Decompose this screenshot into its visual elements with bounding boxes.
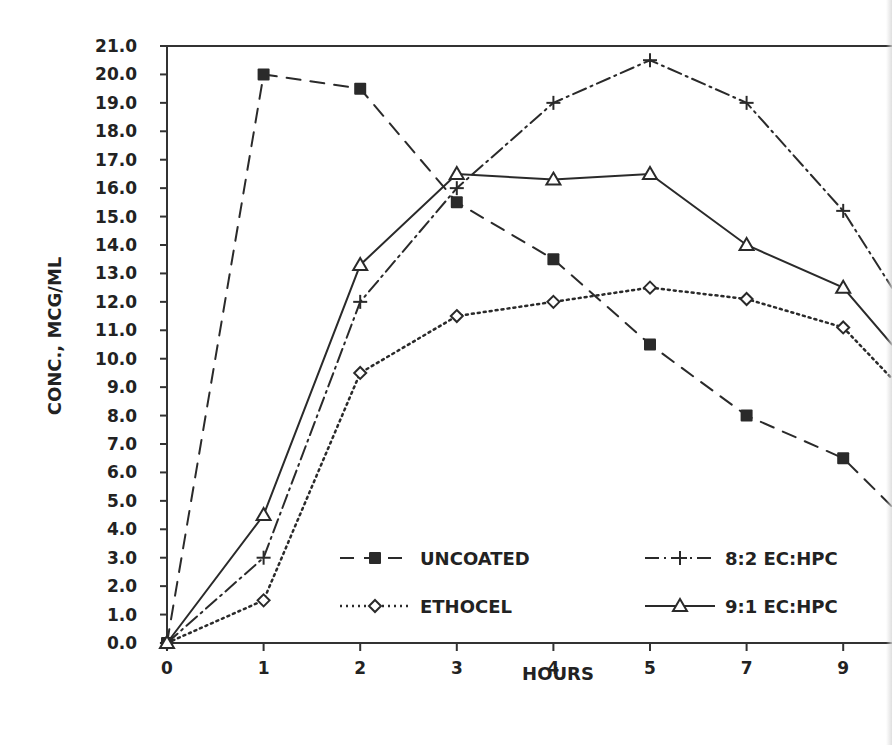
filled-square-marker-icon	[837, 452, 849, 464]
y-tick-label: 16.0	[95, 178, 137, 198]
open-diamond-marker-icon	[369, 600, 381, 612]
series-line	[167, 288, 892, 643]
filled-square-marker-icon	[369, 552, 381, 564]
y-tick-label: 0.0	[107, 633, 137, 653]
y-tick-label: 11.0	[95, 320, 137, 340]
y-tick-label: 13.0	[95, 263, 137, 283]
open-triangle-marker-icon	[643, 167, 657, 179]
y-tick-label: 20.0	[95, 64, 137, 84]
y-tick-label: 5.0	[107, 491, 137, 511]
x-tick-label: 7	[741, 658, 753, 678]
series-line	[167, 174, 892, 643]
y-tick-label: 12.0	[95, 292, 137, 312]
x-tick-label: 5	[644, 658, 656, 678]
legend: UNCOATEDETHOCEL8:2 EC:HPC9:1 EC:HPC	[340, 548, 838, 617]
x-axis-ticks: 01234579	[161, 643, 849, 678]
open-diamond-marker-icon	[451, 310, 463, 322]
legend-item: UNCOATED	[340, 548, 530, 569]
legend-item: ETHOCEL	[340, 596, 512, 617]
x-tick-label: 3	[451, 658, 463, 678]
legend-label: UNCOATED	[420, 548, 530, 569]
open-diamond-marker-icon	[741, 293, 753, 305]
open-triangle-marker-icon	[257, 508, 271, 520]
y-tick-label: 2.0	[107, 576, 137, 596]
open-diamond-marker-icon	[644, 282, 656, 294]
y-axis-ticks: 0.01.02.03.04.05.06.07.08.09.010.011.012…	[95, 36, 167, 653]
legend-label: 8:2 EC:HPC	[725, 548, 838, 569]
open-diamond-marker-icon	[354, 367, 366, 379]
series-9-1-ec-hpc	[160, 167, 892, 648]
open-diamond-marker-icon	[258, 594, 270, 606]
y-tick-label: 21.0	[95, 36, 137, 56]
x-tick-label: 9	[837, 658, 849, 678]
plus-marker-icon	[836, 204, 850, 218]
x-tick-label: 0	[161, 658, 173, 678]
open-triangle-marker-icon	[740, 238, 754, 250]
x-tick-label: 2	[354, 658, 366, 678]
y-tick-label: 9.0	[107, 377, 137, 397]
filled-square-marker-icon	[258, 68, 270, 80]
y-tick-label: 14.0	[95, 235, 137, 255]
legend-item: 8:2 EC:HPC	[645, 548, 838, 569]
y-tick-label: 18.0	[95, 121, 137, 141]
plus-marker-icon	[643, 53, 657, 67]
filled-square-marker-icon	[741, 410, 753, 422]
y-tick-label: 6.0	[107, 462, 137, 482]
concentration-line-chart: 0.01.02.03.04.05.06.07.08.09.010.011.012…	[0, 0, 892, 745]
filled-square-marker-icon	[547, 253, 559, 265]
open-triangle-marker-icon	[450, 167, 464, 179]
y-tick-label: 3.0	[107, 548, 137, 568]
scan-edge-shadow	[886, 0, 892, 745]
filled-square-marker-icon	[451, 196, 463, 208]
y-tick-label: 15.0	[95, 207, 137, 227]
y-tick-label: 4.0	[107, 519, 137, 539]
x-axis-title: HOURS	[522, 663, 594, 684]
y-tick-label: 1.0	[107, 605, 137, 625]
y-tick-label: 19.0	[95, 93, 137, 113]
y-tick-label: 17.0	[95, 150, 137, 170]
series-ethocel	[161, 282, 892, 649]
plus-marker-icon	[673, 551, 687, 565]
y-tick-label: 10.0	[95, 349, 137, 369]
legend-item: 9:1 EC:HPC	[645, 596, 838, 617]
y-axis-title: CONC., MCG/ML	[44, 257, 65, 416]
filled-square-marker-icon	[644, 339, 656, 351]
plus-marker-icon	[546, 96, 560, 110]
legend-label: 9:1 EC:HPC	[725, 596, 838, 617]
legend-label: ETHOCEL	[420, 596, 512, 617]
plus-marker-icon	[257, 551, 271, 565]
open-diamond-marker-icon	[547, 296, 559, 308]
x-tick-label: 1	[258, 658, 270, 678]
y-tick-label: 8.0	[107, 406, 137, 426]
filled-square-marker-icon	[354, 83, 366, 95]
y-tick-label: 7.0	[107, 434, 137, 454]
open-triangle-marker-icon	[836, 281, 850, 293]
